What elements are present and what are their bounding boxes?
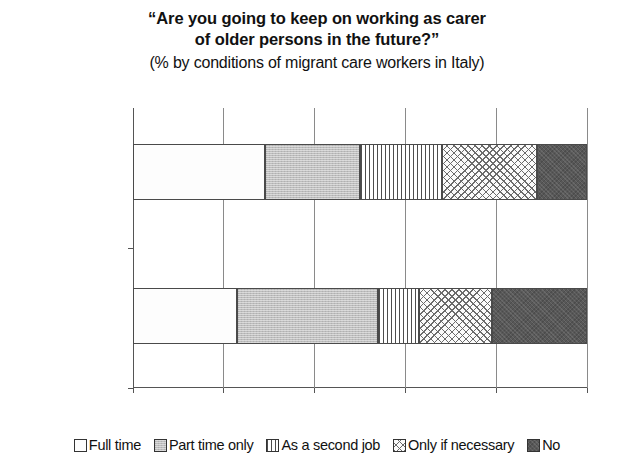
legend-item-full-time[interactable]: Full time xyxy=(74,437,141,453)
legend-item-part-time-only[interactable]: Part time only xyxy=(154,437,253,453)
x-tick xyxy=(133,388,134,393)
bar-segment-no xyxy=(492,288,587,344)
legend-item-no[interactable]: No xyxy=(527,437,560,453)
bar-segment-as-a-second-job xyxy=(360,144,442,200)
bar-segment-only-if-necessary xyxy=(442,144,537,200)
page-title-line-2: of older persons in the future?” xyxy=(0,29,634,50)
legend-item-as-a-second-job[interactable]: As a second job xyxy=(266,437,380,453)
bar-segment-part-time-only xyxy=(237,288,378,344)
chart-title-block: “Are you going to keep on working as car… xyxy=(0,8,634,76)
legend-swatch-icon xyxy=(74,439,87,452)
legend-item-only-if-necessary[interactable]: Only if necessary xyxy=(393,437,514,453)
legend-label: As a second job xyxy=(281,437,380,453)
legend-label: Only if necessary xyxy=(408,437,514,453)
y-tick xyxy=(128,388,133,389)
x-tick xyxy=(587,388,588,393)
legend-label: No xyxy=(542,437,560,453)
y-tick xyxy=(128,248,133,249)
chart-subtitle: (% by conditions of migrant care workers… xyxy=(0,50,634,76)
x-tick xyxy=(223,388,224,393)
legend-swatch-icon xyxy=(266,439,279,452)
bar-segment-full-time xyxy=(133,288,237,344)
legend-swatch-icon xyxy=(527,439,540,452)
bar-segment-full-time xyxy=(133,144,265,200)
legend-label: Full time xyxy=(89,437,141,453)
bar-segment-as-a-second-job xyxy=(378,288,419,344)
page-title-line-1: “Are you going to keep on working as car… xyxy=(0,8,634,29)
bar-without-contract xyxy=(133,144,587,200)
x-tick xyxy=(405,388,406,393)
bar-regularly-employed xyxy=(133,288,587,344)
chart-legend: Full timePart time onlyAs a second jobOn… xyxy=(0,437,634,453)
legend-swatch-icon xyxy=(154,439,167,452)
legend-swatch-icon xyxy=(393,439,406,452)
x-tick xyxy=(496,388,497,393)
bar-segment-only-if-necessary xyxy=(419,288,492,344)
bar-segment-no xyxy=(537,144,587,200)
legend-label: Part time only xyxy=(169,437,253,453)
x-tick xyxy=(314,388,315,393)
bar-segment-part-time-only xyxy=(265,144,360,200)
chart-plot-area: 0%20%40%60%80%100% Without contractRegul… xyxy=(133,108,587,388)
